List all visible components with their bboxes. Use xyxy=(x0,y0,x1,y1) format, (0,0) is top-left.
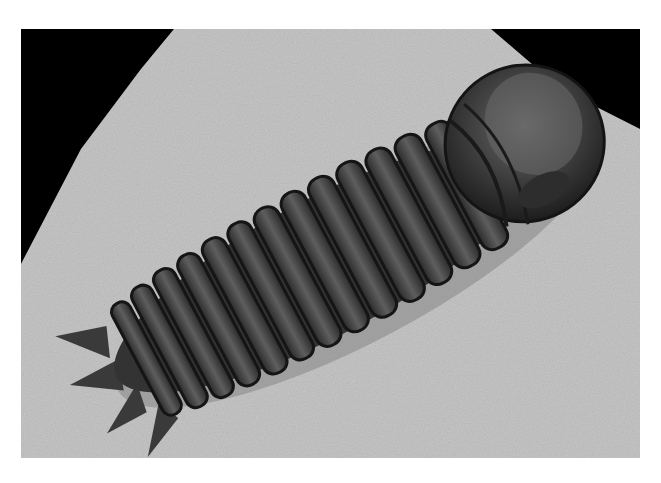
fossil-illustration xyxy=(21,29,640,458)
trilobite-photo: Black-and-white photograph of a segmente… xyxy=(21,29,640,458)
